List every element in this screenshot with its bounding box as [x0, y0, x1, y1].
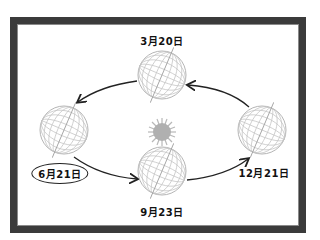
- sun-icon: [148, 118, 176, 146]
- globe-icon-top: [128, 38, 196, 112]
- label-june-solstice-circled: 6月21日: [31, 163, 88, 184]
- arrow-right-to-top: [188, 85, 249, 107]
- arrow-top-to-left: [78, 81, 137, 102]
- globe-icon-left: [30, 93, 98, 167]
- label-march-equinox: 3月20日: [140, 33, 183, 48]
- label-september-equinox: 9月23日: [140, 204, 183, 219]
- globe-icon-right: [228, 93, 296, 167]
- label-december-solstice: 12月21日: [239, 165, 290, 180]
